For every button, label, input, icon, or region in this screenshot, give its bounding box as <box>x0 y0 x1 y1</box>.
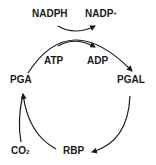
nadp-label: NADP+ <box>85 9 117 19</box>
rbp-label: RBP <box>63 146 84 156</box>
pgal-to-rbp-arrow <box>92 96 130 152</box>
pgal-label: PGAL <box>117 75 145 85</box>
co2-label: CO2 <box>11 146 29 156</box>
adp-label: ADP <box>87 56 108 66</box>
pga-label: PGA <box>10 75 32 85</box>
co2-sub: 2 <box>26 149 29 155</box>
nadph-label: NADPH <box>32 9 68 19</box>
nadph-arrow <box>58 26 95 31</box>
nadp-sup: + <box>113 10 117 16</box>
co2-base: CO <box>11 145 26 156</box>
rbp-to-pga-arrow <box>23 94 56 149</box>
co2-to-pga-arrow <box>19 94 23 142</box>
nadp-base: NADP <box>85 8 113 19</box>
atp-label: ATP <box>44 56 63 66</box>
